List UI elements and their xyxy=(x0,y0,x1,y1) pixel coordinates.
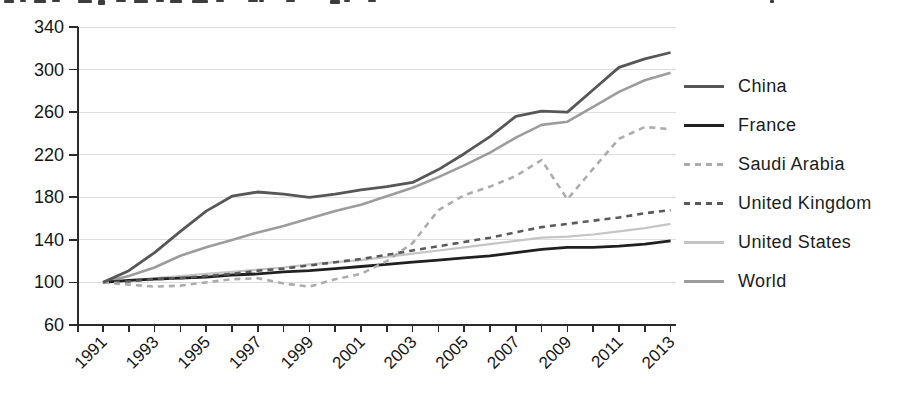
y-axis-label: 300 xyxy=(34,60,64,80)
y-axis-label: 140 xyxy=(34,230,64,250)
legend-item-world: World xyxy=(684,270,872,292)
y-axis-label: 180 xyxy=(34,187,64,207)
legend-label: United Kingdom xyxy=(738,193,872,214)
legend-swatch-saudi-arabia xyxy=(684,163,724,166)
legend-swatch-china xyxy=(684,85,724,88)
y-axis-label: 260 xyxy=(34,102,64,122)
legend-label: Saudi Arabia xyxy=(738,154,845,175)
x-axis-label: 2007 xyxy=(483,332,523,372)
x-axis-label: 2005 xyxy=(432,332,472,372)
x-axis-label: 2009 xyxy=(535,332,575,372)
legend-item-united-kingdom: United Kingdom xyxy=(684,192,872,214)
y-axis-label: 220 xyxy=(34,145,64,165)
legend-item-saudi-arabia: Saudi Arabia xyxy=(684,153,872,175)
legend-swatch-france xyxy=(684,124,724,127)
legend-swatch-world xyxy=(684,280,724,283)
chart-figure: 6010014018022026030034019911993199519971… xyxy=(0,0,924,403)
legend-label: World xyxy=(738,271,787,292)
x-axis-label: 1991 xyxy=(71,332,111,372)
legend: China France Saudi Arabia United Kingdom… xyxy=(684,75,872,292)
x-axis-label: 1999 xyxy=(277,332,317,372)
x-axis-label: 1995 xyxy=(174,332,214,372)
legend-item-france: France xyxy=(684,114,872,136)
y-axis-label: 340 xyxy=(34,17,64,37)
legend-label: United States xyxy=(738,232,851,253)
x-axis-label: 2011 xyxy=(588,332,627,371)
x-axis-label: 2001 xyxy=(329,332,369,372)
legend-label: France xyxy=(738,115,796,136)
x-axis-label: 1993 xyxy=(122,332,162,372)
y-axis-label: 60 xyxy=(44,315,64,335)
legend-item-china: China xyxy=(684,75,872,97)
legend-label: China xyxy=(738,76,787,97)
series-line-saudi-arabia xyxy=(103,127,671,287)
x-axis-label: 2013 xyxy=(638,332,678,372)
legend-swatch-united-states xyxy=(684,241,724,244)
y-axis-label: 100 xyxy=(34,272,64,292)
legend-swatch-united-kingdom xyxy=(684,202,724,205)
x-axis-label: 2003 xyxy=(380,332,420,372)
x-axis-label: 1997 xyxy=(225,332,265,372)
legend-item-united-states: United States xyxy=(684,231,872,253)
